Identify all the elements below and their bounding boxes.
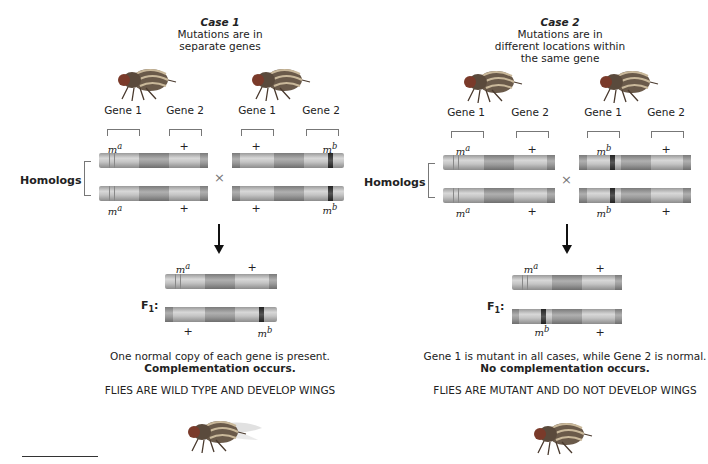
gene-label: Gene 1 xyxy=(232,104,282,116)
allele-label: + xyxy=(174,140,194,153)
homologs-label: Homologs xyxy=(364,176,426,189)
allele-label: + xyxy=(522,205,542,218)
mutation-band xyxy=(328,186,333,201)
case2-explanation: Gene 1 is mutant in all cases, while Gen… xyxy=(420,350,708,362)
allele-label: + xyxy=(590,262,610,275)
allele-label: + xyxy=(174,202,194,215)
divider xyxy=(22,456,98,457)
allele-label: ma xyxy=(448,205,478,219)
chromosome xyxy=(443,155,555,170)
allele-label: + xyxy=(246,140,266,153)
gene-bracket xyxy=(107,129,140,136)
arrow-icon xyxy=(566,224,568,246)
chromosome xyxy=(99,153,208,168)
mutation-band xyxy=(541,309,546,324)
chromosome xyxy=(165,274,277,289)
case2-title: Case 2 Mutations are in different locati… xyxy=(490,16,630,64)
case1-conclusion: Complementation occurs. xyxy=(144,362,295,374)
gene-label: Gene 2 xyxy=(160,104,210,116)
gene-bracket xyxy=(516,131,549,138)
case1-title: Case 1 Mutations are in separate genes xyxy=(160,16,280,52)
allele-label: + xyxy=(178,325,198,338)
case2-subtitle-line: different locations within xyxy=(490,40,630,52)
allele-label: + xyxy=(242,261,262,274)
cross-symbol: × xyxy=(214,170,225,185)
chromosome xyxy=(512,275,622,290)
chromosome xyxy=(232,153,344,168)
allele-label: ma xyxy=(100,203,130,217)
case1-heading: Case 1 xyxy=(160,16,280,28)
gene-bracket xyxy=(169,129,202,136)
homologs-brace xyxy=(428,163,435,198)
allele-label: ma xyxy=(516,261,546,275)
gene-bracket xyxy=(651,131,684,138)
allele-label: + xyxy=(656,205,676,218)
f1-label: F1: xyxy=(141,299,159,314)
gene-bracket xyxy=(451,131,484,138)
case1-caption: One normal copy of each gene is present.… xyxy=(100,350,340,374)
gene-label: Gene 1 xyxy=(441,106,491,118)
gene-label: Gene 2 xyxy=(296,104,346,116)
chromosome xyxy=(232,186,344,201)
allele-label: + xyxy=(590,326,610,339)
case1-explanation: One normal copy of each gene is present. xyxy=(100,350,340,362)
arrow-icon xyxy=(218,224,220,246)
arrow-head-icon xyxy=(562,245,572,254)
case1-result: FLIES ARE WILD TYPE AND DEVELOP WINGS xyxy=(100,384,340,396)
gene-bracket xyxy=(306,129,339,136)
chromosome xyxy=(579,155,691,170)
chromosome xyxy=(443,188,555,203)
homologs-brace xyxy=(84,161,91,196)
allele-label: + xyxy=(246,202,266,215)
cross-symbol: × xyxy=(561,172,572,187)
allele-label: mb xyxy=(250,325,280,339)
gene-label: Gene 1 xyxy=(578,106,628,118)
mutation-band xyxy=(328,153,333,168)
gene-label: Gene 2 xyxy=(505,106,555,118)
mutation-band xyxy=(610,188,615,203)
gene-bracket xyxy=(241,129,274,136)
chromosome xyxy=(579,188,691,203)
fly-icon xyxy=(246,60,326,106)
mutation-band xyxy=(259,307,264,322)
gene-label: Gene 2 xyxy=(641,106,691,118)
fly-icon xyxy=(594,62,674,108)
gene-bracket xyxy=(587,131,620,138)
f1-label: F1: xyxy=(487,300,505,315)
gene-label: Gene 1 xyxy=(98,104,148,116)
wingless-fly-icon xyxy=(528,414,608,460)
allele-label: mb xyxy=(589,205,619,219)
case2-heading: Case 2 xyxy=(490,16,630,28)
case2-caption: Gene 1 is mutant in all cases, while Gen… xyxy=(420,350,708,374)
chromosome xyxy=(165,307,277,322)
allele-label: mb xyxy=(527,324,557,338)
arrow-head-icon xyxy=(214,245,224,254)
case2-result: FLIES ARE MUTANT AND DO NOT DEVELOP WING… xyxy=(420,384,708,396)
allele-label: mb xyxy=(315,202,345,216)
fly-icon xyxy=(458,62,538,108)
case1-subtitle-line: separate genes xyxy=(160,40,280,52)
homologs-label: Homologs xyxy=(20,174,82,187)
case2-conclusion: No complementation occurs. xyxy=(480,362,649,374)
case1-subtitle-line: Mutations are in xyxy=(160,28,280,40)
fly-icon xyxy=(112,60,192,106)
case2-subtitle-line: Mutations are in xyxy=(490,28,630,40)
mutation-band xyxy=(610,155,615,170)
chromosome xyxy=(512,309,622,324)
chromosome xyxy=(99,186,208,201)
winged-fly-icon xyxy=(182,412,282,460)
